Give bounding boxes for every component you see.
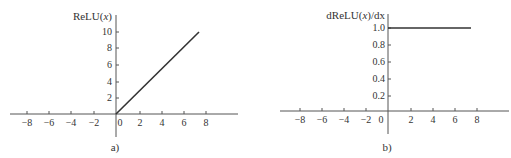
x-tick-label: 2 [138,117,143,128]
x-tick-label: 8 [475,114,480,125]
y-tick-labels: 0.2 0.4 0.6 0.8 1.0 [373,22,386,101]
x-tick-labels: −8 −6 −4 −2 0 2 4 6 8 [295,114,480,125]
relu-line [116,32,199,114]
x-tick-label: 6 [453,114,458,125]
x-tick-label: 0 [379,114,384,125]
y-tick-labels: 2 4 6 8 10 [102,26,112,103]
x-tick-label: 2 [409,114,414,125]
figure: −8 −6 −4 −2 0 2 4 6 8 2 4 6 8 10 ReLU(x) [0,0,511,158]
x-tick-label: −2 [89,117,100,128]
panel-label: b) [382,141,392,154]
x-tick-label: −2 [361,114,372,125]
y-tick-label: 10 [102,26,112,37]
y-tick-label: 8 [107,42,112,53]
x-tick-label: 6 [182,117,187,128]
y-axis-title: ReLU(x) [73,10,112,23]
x-tick-label: −8 [295,114,306,125]
panel-label: a) [111,141,120,154]
x-tick-label: 4 [431,114,436,125]
y-tick-label: 2 [107,92,112,103]
y-tick-label: 0.8 [373,39,386,50]
x-tick-label: 8 [204,117,209,128]
x-tick-label: −6 [44,117,55,128]
y-tick-label: 6 [107,59,112,70]
y-tick-label: 0.6 [373,56,386,67]
chart-relu-derivative: −8 −6 −4 −2 0 2 4 6 8 0.2 0.4 0.6 0.8 1.… [280,9,509,154]
x-tick-label: 4 [160,117,165,128]
y-tick-label: 0.2 [373,90,386,101]
x-tick-label: 0 [118,117,123,128]
y-tick-label: 0.4 [373,73,386,84]
y-axis-title: dReLU(x)/dx [326,9,385,22]
y-tick-label: 4 [107,76,112,87]
y-tick-label: 1.0 [373,22,386,33]
x-tick-label: −4 [66,117,77,128]
x-tick-label: −4 [339,114,350,125]
x-tick-labels: −8 −6 −4 −2 0 2 4 6 8 [22,117,209,128]
x-tick-label: −8 [22,117,33,128]
chart-relu: −8 −6 −4 −2 0 2 4 6 8 2 4 6 8 10 ReLU(x) [10,10,238,154]
x-tick-label: −6 [317,114,328,125]
